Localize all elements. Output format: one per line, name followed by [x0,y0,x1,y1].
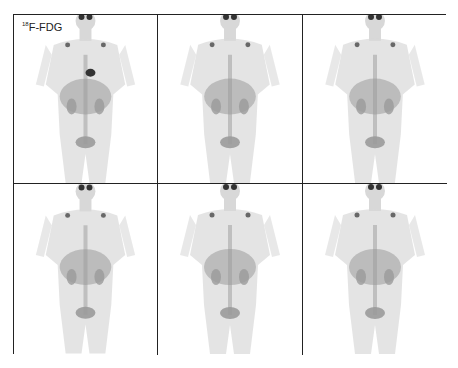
panel-6 [303,184,447,355]
panel-3 [303,15,447,184]
pet-scan-image [158,184,302,355]
panel-1: 18F-FDG [14,15,158,184]
pet-scan-image [158,15,302,183]
tracer-label: 18F-FDG [22,21,62,33]
panel-5 [158,184,303,355]
pet-scan-image [303,184,447,355]
pet-scan-image [303,15,447,183]
pet-scan-image [14,184,157,355]
pet-scan-image [14,15,157,183]
pet-image-grid: 18F-FDG [13,14,446,354]
panel-2 [158,15,303,184]
panel-4 [14,184,158,355]
